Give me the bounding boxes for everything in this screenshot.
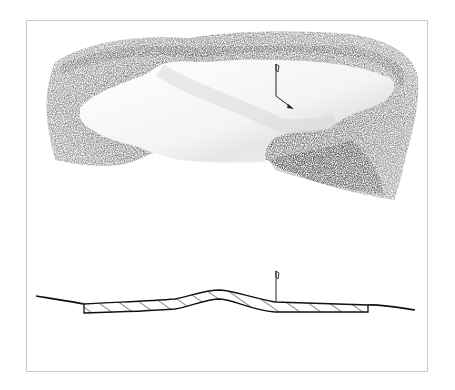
hatched-layer xyxy=(84,290,368,313)
golf-green-illustration xyxy=(0,0,455,390)
section-flag-icon xyxy=(276,271,279,279)
cross-section xyxy=(36,271,415,313)
